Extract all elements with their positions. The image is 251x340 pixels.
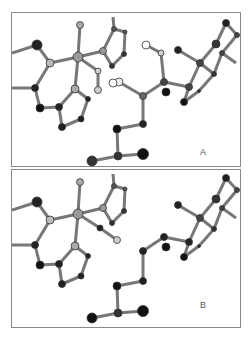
- molecule-diagram-b: [12, 170, 242, 329]
- structure-panel-b: B: [11, 169, 241, 328]
- panel-label-a: A: [200, 147, 206, 157]
- molecule-diagram-a: [12, 13, 242, 168]
- panel-label-b: B: [200, 300, 206, 310]
- structure-panel-a: A: [11, 12, 241, 167]
